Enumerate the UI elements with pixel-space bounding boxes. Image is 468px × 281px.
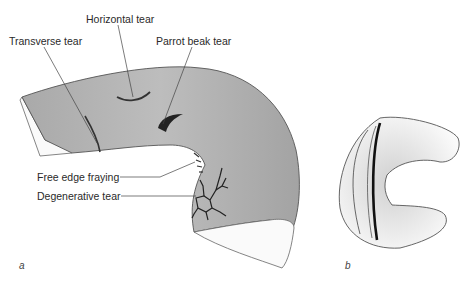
panel-letter-b: b [345, 260, 351, 271]
meniscus-a [20, 67, 299, 268]
label-horizontal-tear: Horizontal tear [86, 13, 154, 25]
label-parrot-beak-tear: Parrot beak tear [156, 35, 231, 47]
label-transverse-tear: Transverse tear [9, 35, 82, 47]
meniscus-b [339, 117, 459, 248]
label-free-edge-fraying: Free edge fraying [37, 171, 119, 183]
label-degenerative-tear: Degenerative tear [37, 190, 120, 202]
panel-letter-a: a [19, 260, 25, 271]
